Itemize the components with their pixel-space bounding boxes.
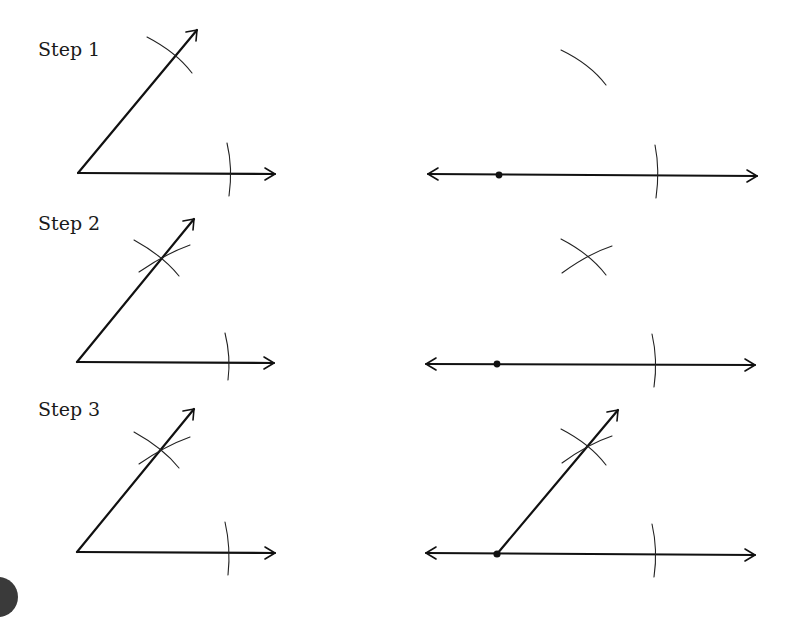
step-1-point-on-new-line bbox=[496, 172, 503, 179]
step-2-given-angle-base-ray bbox=[77, 362, 274, 363]
step-3-new-line-segment bbox=[426, 553, 755, 555]
step-3-copied-angle-ray bbox=[497, 410, 618, 554]
step-2-distance-arc bbox=[139, 245, 190, 272]
step-1-arc-on-base-ray bbox=[227, 143, 231, 196]
step-2-point-on-new-line bbox=[494, 361, 501, 368]
step-3-given-angle-base-ray bbox=[77, 552, 275, 553]
step-1-new-line bbox=[428, 50, 757, 198]
step-2-new-line bbox=[426, 239, 755, 387]
step-1-given-angle-base-ray bbox=[78, 173, 275, 174]
step-3-new-line bbox=[426, 410, 755, 577]
step-1-copied-arc-upper bbox=[561, 50, 606, 85]
step-3-copied-distance-arc bbox=[562, 436, 612, 463]
step-2-copied-arc-lower bbox=[652, 334, 656, 387]
step-1-given-angle bbox=[78, 30, 275, 196]
step-3-distance-arc bbox=[139, 437, 190, 464]
step-3-arc-on-base-ray bbox=[225, 522, 229, 575]
step-2-copied-distance-arc bbox=[562, 246, 612, 273]
step-1-given-angle-slanted-ray bbox=[78, 30, 197, 173]
step-3-given-angle-slanted-ray bbox=[77, 409, 194, 552]
step-3-given-angle bbox=[77, 409, 275, 575]
step-3-copied-arc-lower bbox=[652, 524, 656, 577]
step-1-copied-arc-lower bbox=[655, 145, 658, 198]
step-1-arc-on-slanted-ray bbox=[147, 37, 192, 73]
step-2-given-angle bbox=[77, 219, 274, 380]
step-1-new-line-segment bbox=[428, 174, 757, 176]
step-3-copied-arc-upper bbox=[561, 429, 606, 465]
step-2-arc-on-base-ray bbox=[225, 333, 229, 380]
step-2-new-line-segment bbox=[426, 364, 755, 365]
step-2-copied-arc-upper bbox=[561, 239, 606, 275]
